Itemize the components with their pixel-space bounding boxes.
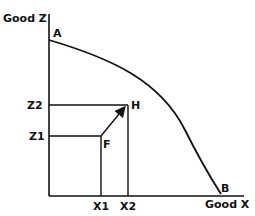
point-f-label: F: [103, 138, 111, 151]
point-a-label: A: [53, 27, 62, 40]
y-axis-label: Good Z: [3, 12, 47, 25]
z2-tick-label: Z2: [27, 99, 43, 112]
z1-tick-label: Z1: [29, 130, 45, 143]
ppf-diagram: Good Z Good X A B H F Z2 Z1 X1 X2: [0, 0, 255, 216]
x-axis-label: Good X: [205, 198, 250, 211]
point-b-label: B: [221, 182, 229, 195]
ppf-curve: [49, 40, 221, 194]
x1-tick-label: X1: [93, 200, 109, 213]
point-h-label: H: [131, 99, 140, 112]
x2-tick-label: X2: [120, 200, 136, 213]
growth-arrow: [101, 108, 124, 136]
